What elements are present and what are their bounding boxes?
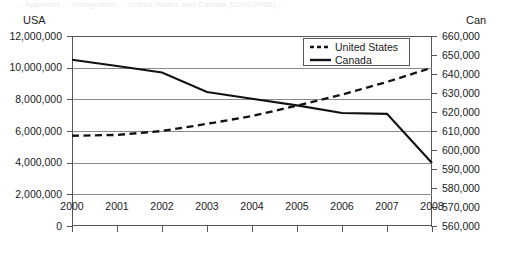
right-axis-tick-label: 600,000 [442, 145, 480, 156]
chart-legend: United States Canada [303, 38, 410, 66]
right-axis-tick-label: 630,000 [442, 88, 480, 99]
x-axis-tick [342, 226, 343, 232]
legend-item-canada: Canada [309, 54, 409, 66]
right-axis-tick-label: 650,000 [442, 50, 480, 61]
x-axis-tick [72, 226, 73, 232]
right-axis-tick-label: 610,000 [442, 126, 480, 137]
faint-scan-header: ...Appendix ... Immigration ... United S… [18, 0, 358, 11]
x-axis-tick-label: 2004 [230, 200, 274, 212]
x-axis-tick-label: 2002 [140, 200, 184, 212]
left-axis-tick-label: 12,000,000 [0, 31, 62, 42]
x-axis-tick [162, 226, 163, 232]
x-axis-tick-label: 2001 [95, 200, 139, 212]
x-axis-tick [432, 226, 433, 232]
x-axis-tick [297, 226, 298, 232]
series-line-canada [72, 60, 432, 163]
right-axis-tick-label: 660,000 [442, 31, 480, 42]
x-axis-tick-label: 2005 [275, 200, 319, 212]
x-axis-tick-label: 2006 [320, 200, 364, 212]
right-axis-caption: Can [466, 14, 486, 26]
x-axis-tick-label: 2000 [50, 200, 94, 212]
legend-label-united-states: United States [335, 42, 398, 53]
left-axis-tick-label: 6,000,000 [0, 126, 62, 137]
dashed-line-swatch-icon [309, 42, 332, 52]
x-axis-tick-label: 2003 [185, 200, 229, 212]
right-axis-tick-label: 580,000 [442, 183, 480, 194]
right-axis-tick-label: 590,000 [442, 164, 480, 175]
right-axis-tick-label: 560,000 [442, 221, 480, 232]
left-axis-tick-label: 4,000,000 [0, 157, 62, 168]
left-axis-tick-label: 0 [0, 221, 62, 232]
x-axis-tick [117, 226, 118, 232]
left-axis-tick-label: 10,000,000 [0, 62, 62, 73]
x-axis-tick [252, 226, 253, 232]
right-axis-tick-label: 640,000 [442, 69, 480, 80]
x-axis-tick-label: 2008 [410, 200, 454, 212]
immigration-line-chart: ...Appendix ... Immigration ... United S… [0, 0, 505, 260]
legend-item-united-states: United States [309, 41, 409, 53]
left-axis-tick-label: 2,000,000 [0, 189, 62, 200]
left-axis-tick-label: 8,000,000 [0, 94, 62, 105]
x-axis-tick [207, 226, 208, 232]
series-line-united-states [72, 68, 432, 136]
right-axis-tick-label: 620,000 [442, 107, 480, 118]
solid-line-swatch-icon [309, 55, 332, 65]
x-axis-tick [387, 226, 388, 232]
legend-label-canada: Canada [335, 55, 372, 66]
x-axis-tick-label: 2007 [365, 200, 409, 212]
left-axis-caption: USA [23, 14, 46, 26]
